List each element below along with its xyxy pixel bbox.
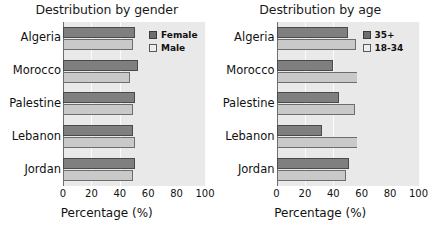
category-labels-age: AlgeriaMoroccoPalestineLebanonJordan xyxy=(214,22,275,186)
legend-swatch-icon xyxy=(149,44,157,52)
legend-label: Female xyxy=(161,30,198,40)
legend-label: 18-34 xyxy=(375,43,404,53)
bar xyxy=(277,39,357,50)
legend-swatch-icon xyxy=(149,31,157,39)
x-tick-label: 60 xyxy=(355,188,368,199)
category-label: Palestine xyxy=(4,96,61,110)
bar xyxy=(277,72,369,83)
bar xyxy=(277,170,347,181)
legend-gender: FemaleMale xyxy=(143,22,205,186)
category-label: Algeria xyxy=(4,30,61,44)
x-tick-label: 60 xyxy=(142,188,155,199)
x-tick-label: 20 xyxy=(85,188,98,199)
chart-panel-gender: Destribution by gender AlgeriaMoroccoPal… xyxy=(0,0,214,245)
gridline xyxy=(205,22,206,186)
chart-panel-age: Destribution by age AlgeriaMoroccoPalest… xyxy=(214,0,428,245)
x-tick-label: 0 xyxy=(273,188,279,199)
legend-item[interactable]: 18-34 xyxy=(363,43,404,53)
bar xyxy=(63,104,133,115)
x-tick-label: 100 xyxy=(195,188,214,199)
category-labels-gender: AlgeriaMoroccoPalestineLebanonJordan xyxy=(0,22,61,186)
x-axis-title-age: Percentage (%) xyxy=(214,206,428,220)
legend-age: 35+18-34 xyxy=(357,22,419,186)
category-label: Morocco xyxy=(218,63,275,77)
bar xyxy=(63,125,133,136)
bar xyxy=(277,125,322,136)
legend-item[interactable]: 35+ xyxy=(363,30,395,40)
category-label: Palestine xyxy=(218,96,275,110)
x-tick-label: 40 xyxy=(113,188,126,199)
bar xyxy=(277,158,349,169)
bar xyxy=(63,60,138,71)
bar xyxy=(63,39,133,50)
bar xyxy=(277,104,355,115)
x-axis-title-gender: Percentage (%) xyxy=(0,206,214,220)
bar xyxy=(277,27,348,38)
category-label: Lebanon xyxy=(218,129,275,143)
legend-item[interactable]: Female xyxy=(149,30,198,40)
bar xyxy=(63,92,135,103)
bar xyxy=(277,92,339,103)
bar xyxy=(277,60,334,71)
category-label: Jordan xyxy=(4,162,61,176)
panel-title-age: Destribution by age xyxy=(214,2,428,17)
x-tick-label: 20 xyxy=(299,188,312,199)
bar xyxy=(63,137,135,148)
x-tick-label: 40 xyxy=(327,188,340,199)
bar xyxy=(63,170,133,181)
x-tick-label: 0 xyxy=(60,188,66,199)
legend-swatch-icon xyxy=(363,44,371,52)
legend-label: Male xyxy=(161,43,185,53)
x-tick-label: 80 xyxy=(170,188,183,199)
legend-swatch-icon xyxy=(363,31,371,39)
x-tick-label: 100 xyxy=(409,188,428,199)
legend-label: 35+ xyxy=(375,30,395,40)
category-label: Lebanon xyxy=(4,129,61,143)
legend-item[interactable]: Male xyxy=(149,43,185,53)
panel-title-gender: Destribution by gender xyxy=(0,2,214,17)
gridline xyxy=(419,22,420,186)
category-label: Morocco xyxy=(4,63,61,77)
bar xyxy=(63,72,130,83)
bar xyxy=(63,158,135,169)
x-tick-label: 80 xyxy=(384,188,397,199)
category-label: Algeria xyxy=(218,30,275,44)
category-label: Jordan xyxy=(218,162,275,176)
bar xyxy=(63,27,135,38)
